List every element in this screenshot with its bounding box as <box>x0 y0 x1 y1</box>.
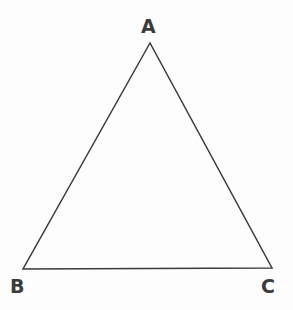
triangle-outline <box>23 43 272 269</box>
triangle-figure-canvas: A B C <box>0 0 293 310</box>
vertex-label-b: B <box>10 277 25 296</box>
vertex-label-a: A <box>141 17 156 36</box>
vertex-label-c: C <box>261 277 275 296</box>
triangle-shape <box>0 0 293 310</box>
